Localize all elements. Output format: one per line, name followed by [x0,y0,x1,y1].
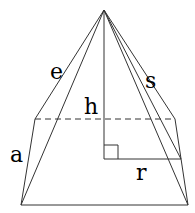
label-s: s [145,68,156,93]
label-a: a [10,142,23,167]
pyramid-diagram: e s h a r [0,0,195,213]
slant-height-line [104,10,181,159]
base-right-edge [175,119,188,205]
right-angle-marker [104,145,118,159]
lateral-edge-back-right [104,10,175,119]
label-e: e [50,59,63,84]
label-r: r [136,160,147,185]
label-h: h [84,94,98,119]
pyramid-svg: e s h a r [0,0,195,213]
